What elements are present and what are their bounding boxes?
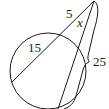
secant-diagram: 5 x 15 25 [0, 0, 109, 109]
label-5: 5 [66, 6, 73, 21]
label-x: x [76, 15, 83, 30]
label-25: 25 [93, 54, 106, 69]
circle [10, 33, 86, 109]
label-15: 15 [28, 40, 41, 55]
